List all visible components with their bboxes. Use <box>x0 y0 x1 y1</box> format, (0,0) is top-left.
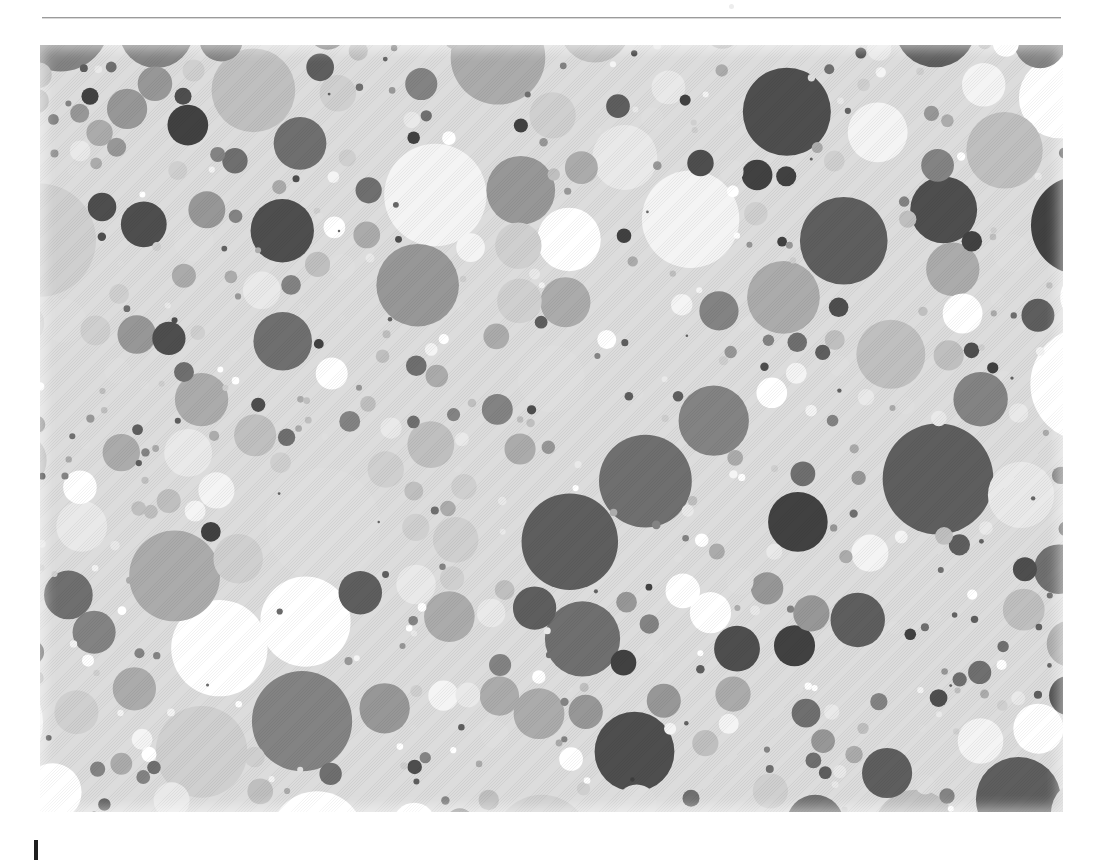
circle-packing-figure <box>40 45 1063 812</box>
header-speck-artifact <box>729 4 734 9</box>
header-divider-rule <box>42 17 1061 18</box>
circle-packing-canvas <box>40 45 1063 812</box>
caption-cursor-bar <box>34 840 38 860</box>
page-root <box>0 0 1103 864</box>
